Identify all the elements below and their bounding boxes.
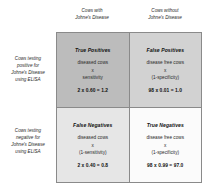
cell-result: 2 x 0.60 = 1.2 bbox=[77, 88, 108, 93]
cell-title: False Positives bbox=[146, 47, 184, 53]
cell-formula: disease free cowsx(1-specificity) bbox=[146, 134, 184, 157]
cell-title: True Negatives bbox=[147, 122, 184, 128]
cell-title: True Positives bbox=[75, 47, 110, 53]
column-header-cows-with-disease: Cows withJohne's Disease bbox=[56, 8, 128, 30]
cell-title: False Negatives bbox=[73, 122, 112, 128]
confusion-matrix-diagram: Cows withJohne's Disease Cows withoutJoh… bbox=[0, 0, 210, 194]
cell-formula: diseased cowsx(1-sensitivity) bbox=[77, 134, 108, 157]
cell-true-negatives: True Negatives disease free cowsx(1-spec… bbox=[130, 108, 202, 182]
cell-result: 2 x 0.40 = 0.8 bbox=[77, 163, 108, 168]
cell-result: 98 x 0.99 = 97.0 bbox=[147, 163, 183, 168]
row-header-testing-positive: Cows testingpositive forJohne's Diseaseu… bbox=[2, 56, 54, 84]
cell-false-negatives: False Negatives diseased cowsx(1-sensiti… bbox=[57, 108, 129, 182]
column-header-cows-without-disease: Cows withoutJohne's Disease bbox=[128, 8, 202, 30]
cell-true-positives: True Positives diseased cowsxsensitivity… bbox=[57, 33, 129, 107]
row-header-testing-negative: Cows testingnegative forJohne's Diseaseu… bbox=[2, 128, 54, 156]
cell-formula: disease free cowsx(1-specificity) bbox=[146, 59, 184, 82]
matrix-grid: True Positives diseased cowsxsensitivity… bbox=[56, 32, 202, 183]
cell-formula: diseased cowsxsensitivity bbox=[77, 59, 108, 82]
cell-false-positives: False Positives disease free cowsx(1-spe… bbox=[130, 33, 202, 107]
cell-result: 98 x 0.01 = 1.0 bbox=[148, 88, 182, 93]
